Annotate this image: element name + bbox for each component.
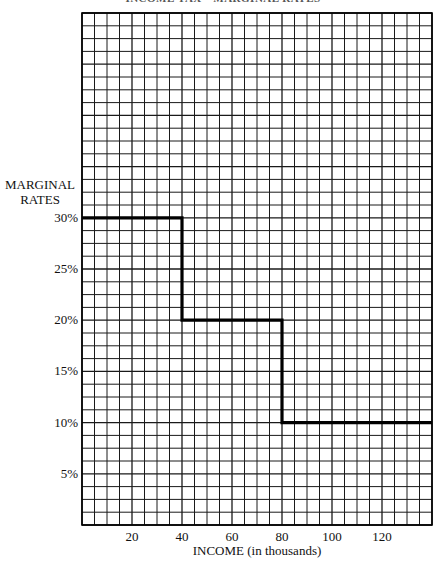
y-tick-label: 25%: [54, 261, 78, 277]
y-tick-label: 30%: [54, 210, 78, 226]
y-axis-title: MARGINAL RATES: [0, 177, 80, 207]
y-tick-label: 20%: [54, 312, 78, 328]
y-tick-label: 10%: [54, 415, 78, 431]
grid-lines: [82, 13, 432, 525]
y-axis-title-line-2: RATES: [0, 192, 80, 207]
y-axis-title-line-1: MARGINAL: [0, 177, 80, 192]
y-tick-label: 15%: [54, 363, 78, 379]
y-tick-label: 5%: [61, 466, 78, 482]
x-axis-title: INCOME (in thousands): [82, 543, 432, 559]
